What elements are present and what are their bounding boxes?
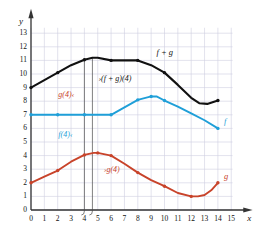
measure-line-x4 <box>81 60 84 215</box>
data-point <box>29 181 32 184</box>
data-point <box>136 98 139 101</box>
data-point <box>216 99 219 102</box>
data-point <box>56 169 59 172</box>
x-tick-6: 6 <box>104 214 118 223</box>
x-tick-10: 10 <box>158 214 172 223</box>
data-point <box>109 113 112 116</box>
annotation-fg4: ›(f + g)(4) <box>98 74 131 83</box>
x-tick-8: 8 <box>131 214 145 223</box>
data-point <box>163 71 166 74</box>
measure-lines <box>81 58 92 215</box>
x-tick-7: 7 <box>117 214 131 223</box>
y-axis-label: y <box>19 16 23 26</box>
x-tick-15: 15 <box>224 214 238 223</box>
x-tick-0: 0 <box>24 214 38 223</box>
data-point <box>56 71 59 74</box>
data-point <box>96 151 99 154</box>
data-point <box>56 113 59 116</box>
curve-label-fg: f + g <box>156 47 173 57</box>
x-tick-13: 13 <box>198 214 212 223</box>
data-point <box>136 171 139 174</box>
x-tick-14: 14 <box>211 214 225 223</box>
data-point <box>83 113 86 116</box>
y-tick-6: 6 <box>15 123 27 132</box>
y-tick-12: 12 <box>15 42 27 51</box>
data-point <box>83 58 86 61</box>
figure-graph-f-plus-g: y x 0123456789101112131415 0123456789101… <box>0 0 268 237</box>
y-tick-8: 8 <box>15 96 27 105</box>
x-tick-5: 5 <box>91 214 105 223</box>
data-point <box>29 86 32 89</box>
annotation-g4-upper: g(4)‹ <box>58 90 74 99</box>
data-point <box>29 113 32 116</box>
y-tick-7: 7 <box>15 110 27 119</box>
x-tick-12: 12 <box>184 214 198 223</box>
curve-label-f: f <box>224 116 226 126</box>
data-point <box>216 127 219 130</box>
x-tick-4: 4 <box>77 214 91 223</box>
data-point <box>136 59 139 62</box>
x-tick-2: 2 <box>51 214 65 223</box>
data-point <box>190 195 193 198</box>
measure-line-x46 <box>89 58 92 215</box>
data-point <box>149 95 152 98</box>
x-tick-9: 9 <box>144 214 158 223</box>
data-point <box>163 185 166 188</box>
y-tick-1: 1 <box>15 191 27 200</box>
y-tick-13: 13 <box>15 28 27 37</box>
data-point <box>109 59 112 62</box>
x-axis-label: x <box>247 213 251 223</box>
y-tick-2: 2 <box>15 178 27 187</box>
x-tick-11: 11 <box>171 214 185 223</box>
y-tick-4: 4 <box>15 151 27 160</box>
chart-svg <box>0 0 268 237</box>
x-tick-3: 3 <box>64 214 78 223</box>
data-point <box>163 99 166 102</box>
x-tick-1: 1 <box>37 214 51 223</box>
y-tick-11: 11 <box>15 55 27 64</box>
y-tick-0: 0 <box>15 205 27 214</box>
data-point <box>109 154 112 157</box>
curve-label-g: g <box>224 171 228 181</box>
annotation-g4-lower: ›g(4) <box>104 165 120 174</box>
y-tick-9: 9 <box>15 83 27 92</box>
y-tick-3: 3 <box>15 164 27 173</box>
data-point <box>216 181 219 184</box>
y-tick-5: 5 <box>15 137 27 146</box>
annotation-f4: f(4)‹ <box>58 130 72 139</box>
data-point <box>83 153 86 156</box>
y-tick-10: 10 <box>15 69 27 78</box>
